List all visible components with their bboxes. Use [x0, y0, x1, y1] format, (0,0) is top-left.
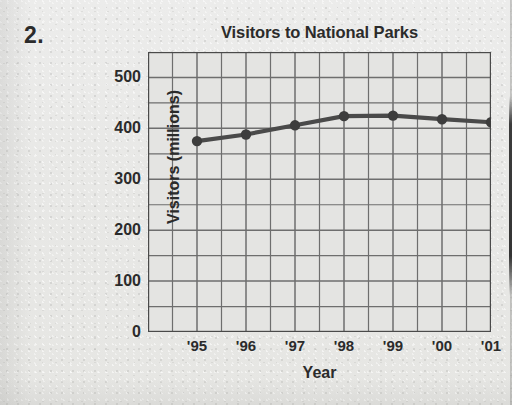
x-tick-label: '97: [285, 337, 305, 354]
x-tick-label: '00: [432, 337, 452, 354]
x-tick-label: '01: [481, 337, 501, 354]
x-tick-label: '96: [236, 337, 256, 354]
y-tick-label: 400: [114, 119, 141, 137]
x-axis-title: Year: [148, 364, 491, 382]
chart-title: Visitors to National Parks: [148, 23, 491, 42]
y-tick-label: 500: [114, 68, 141, 86]
x-tick-label: '98: [334, 337, 354, 354]
x-tick-label: '95: [187, 337, 207, 354]
line-chart-svg: [148, 52, 491, 332]
data-point-marker: [241, 129, 251, 139]
problem-number: 2.: [24, 22, 44, 49]
data-point-marker: [192, 136, 202, 146]
y-tick-label: 200: [114, 221, 141, 239]
y-axis-title: Visitors (millions): [165, 57, 183, 257]
data-point-marker: [437, 114, 447, 124]
y-tick-label: 300: [114, 170, 141, 188]
chart-plot-area: 0100200300400500 '95'96'97'98'99'00'01 V…: [148, 52, 491, 332]
x-tick-label: '99: [383, 337, 403, 354]
worksheet-page: 2. Visitors to National Parks 0100200300…: [0, 0, 512, 405]
y-tick-label: 0: [132, 323, 141, 341]
data-point-marker: [388, 110, 398, 120]
data-point-marker: [290, 120, 300, 130]
y-tick-label: 100: [114, 272, 141, 290]
data-point-marker: [339, 111, 349, 121]
